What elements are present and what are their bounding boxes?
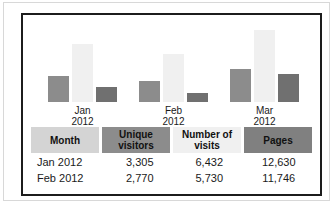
- cell-pages: 12,630: [246, 156, 313, 169]
- cell-month: Jan 2012: [31, 156, 104, 169]
- cell-number-of-visits: 6,432: [176, 156, 243, 169]
- bar-unique-visitors[interactable]: [230, 69, 251, 102]
- bar-set: [48, 16, 117, 102]
- bar-group-mar: Mar 2012: [219, 16, 310, 127]
- column-header-number-of-visits[interactable]: Number of visits: [173, 127, 241, 153]
- bar-group-feb: Feb 2012: [128, 16, 219, 127]
- cell-month: Feb 2012: [31, 172, 104, 185]
- bar-group-label: Jan 2012: [71, 105, 93, 127]
- cell-number-of-visits: 5,730: [176, 172, 243, 185]
- cell-unique-visitors: 3,305: [107, 156, 174, 169]
- table-row: Feb 2012 2,770 5,730 11,746: [31, 172, 312, 185]
- bar-group-list: Jan 2012 Feb 2012 Ma: [37, 15, 310, 127]
- column-header-pages[interactable]: Pages: [244, 127, 312, 153]
- bar-set: [139, 16, 208, 102]
- cell-pages: 11,746: [246, 172, 313, 185]
- column-header-unique-visitors[interactable]: Unique visitors: [102, 127, 170, 153]
- bar-number-of-visits[interactable]: [72, 44, 93, 102]
- table-row: Jan 2012 3,305 6,432 12,630: [31, 156, 312, 169]
- bar-pages[interactable]: [278, 74, 299, 102]
- bar-pages[interactable]: [96, 87, 117, 102]
- outer-frame: Jan 2012 Feb 2012 Ma: [3, 2, 330, 201]
- bar-group-label: Feb 2012: [162, 105, 184, 127]
- bar-group-jan: Jan 2012: [37, 16, 128, 127]
- report-card: Jan 2012 Feb 2012 Ma: [21, 13, 322, 196]
- stats-table: Month Unique visitors Number of visits P…: [31, 127, 312, 185]
- bar-pages[interactable]: [187, 93, 208, 102]
- bar-number-of-visits[interactable]: [163, 54, 184, 102]
- bar-group-label: Mar 2012: [253, 105, 275, 127]
- bar-chart: Jan 2012 Feb 2012 Ma: [23, 15, 320, 127]
- column-header-month[interactable]: Month: [31, 127, 99, 153]
- bar-unique-visitors[interactable]: [48, 76, 69, 102]
- cell-unique-visitors: 2,770: [107, 172, 174, 185]
- table-header-row: Month Unique visitors Number of visits P…: [31, 127, 312, 153]
- bar-unique-visitors[interactable]: [139, 81, 160, 102]
- bar-number-of-visits[interactable]: [254, 30, 275, 102]
- bar-set: [230, 16, 299, 102]
